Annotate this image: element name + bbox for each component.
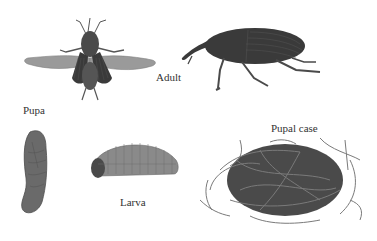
pupa-label: Pupa [23, 104, 45, 116]
larva-illustration [88, 138, 184, 188]
adult-beetle-dorsal-illustration [20, 14, 160, 104]
pupal-case-illustration [200, 130, 370, 230]
life-cycle-diagram: Adult Pupa Larva Pupal case [0, 0, 377, 241]
larva-label: Larva [120, 196, 146, 208]
pupa-illustration [16, 128, 56, 218]
adult-weevil-side-illustration [180, 22, 330, 92]
adult-label: Adult [156, 71, 181, 83]
